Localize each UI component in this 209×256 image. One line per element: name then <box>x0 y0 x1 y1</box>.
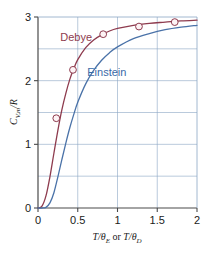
x-axis-title: T/θE or T/θD <box>92 231 141 245</box>
x-axis-tick-labels: 00.511.52 <box>35 214 200 226</box>
x-tick-label: 0.5 <box>70 214 85 226</box>
y-tick-label: 3 <box>25 11 31 23</box>
data-point-marker <box>53 115 60 122</box>
x-tick-label: 2 <box>194 214 200 226</box>
x-axis-ticks <box>38 208 197 212</box>
figure-container: 00.511.52 0123 Debye Einstein T/θE or T/… <box>0 0 209 256</box>
y-axis-tick-labels: 0123 <box>25 11 31 214</box>
data-point-marker <box>136 23 143 30</box>
x-tick-label: 0 <box>35 214 41 226</box>
y-axis-title: CV,m/R <box>8 99 22 125</box>
capacity-vs-temperature-chart: 00.511.52 0123 Debye Einstein T/θE or T/… <box>0 0 209 256</box>
data-point-marker <box>171 19 178 26</box>
series-label-einstein: Einstein <box>87 66 126 78</box>
y-tick-label: 1 <box>25 138 31 150</box>
series-label-debye: Debye <box>60 31 92 43</box>
data-point-marker <box>70 66 77 73</box>
x-tick-label: 1 <box>114 214 120 226</box>
y-tick-label: 0 <box>25 202 31 214</box>
data-point-marker <box>100 31 107 38</box>
y-tick-label: 2 <box>25 75 31 87</box>
x-tick-label: 1.5 <box>150 214 165 226</box>
